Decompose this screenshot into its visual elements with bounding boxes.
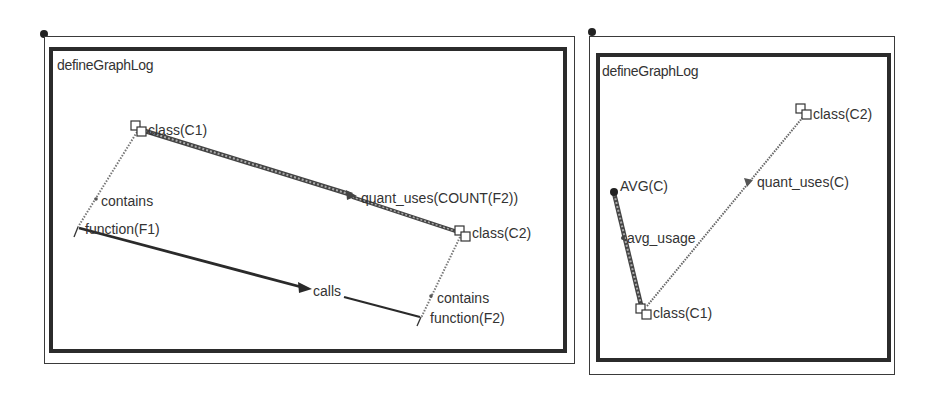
edge-label: contains [101,193,153,209]
node-label: class(C1) [148,122,207,138]
point-node-icon [417,317,421,326]
edge-label: contains [437,290,489,306]
node-class-c1-right[interactable]: class(C1) [636,304,712,321]
node-avg-c[interactable]: AVG(C) [610,178,668,196]
edge-label: quant_uses(COUNT(F2)) [361,190,518,206]
node-class-c2[interactable]: class(C2) [455,225,531,241]
edge-avg-usage[interactable]: avg_usage [614,193,696,309]
class-box-icon [131,121,146,136]
class-box-icon [455,226,470,241]
class-box-icon [796,104,811,119]
node-function-f1[interactable]: function(F1) [74,221,160,237]
edge-calls[interactable]: calls [79,228,420,317]
edge-label: quant_uses(C) [757,174,849,190]
edge-contains-c1-f1[interactable]: contains [78,132,153,227]
node-class-c1[interactable]: class(C1) [131,121,207,138]
node-class-c2-right[interactable]: class(C2) [796,104,872,122]
graph-drawing: contains quant_uses(COUNT(F2)) calls con… [0,0,942,400]
edge-label: avg_usage [627,230,696,246]
class-box-icon [636,304,651,319]
node-label: class(C2) [472,225,531,241]
node-label: class(C1) [653,305,712,321]
edge-quant-uses[interactable]: quant_uses(C) [647,117,849,306]
node-label: function(F1) [85,221,160,237]
node-function-f2[interactable]: function(F2) [417,310,505,326]
node-label: function(F2) [430,310,505,326]
edge-contains-c2-f2[interactable]: contains [421,237,489,318]
point-node-icon [74,227,78,237]
edge-quant-uses-count[interactable]: quant_uses(COUNT(F2)) [145,131,518,232]
node-label: AVG(C) [620,178,668,194]
node-label: class(C2) [813,106,872,122]
edge-label: calls [313,283,341,299]
aggregate-dot-icon [610,188,618,196]
